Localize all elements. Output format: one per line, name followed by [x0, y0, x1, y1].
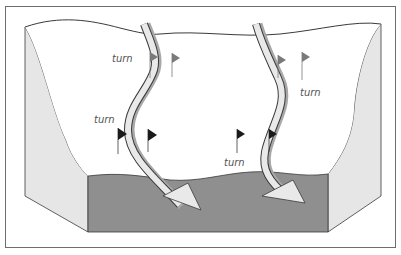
slope-diagram: turn turn turn turn: [0, 0, 401, 255]
turn-label-4: turn: [300, 87, 321, 98]
turn-label-3: turn: [224, 157, 245, 168]
turn-label-2: turn: [94, 114, 115, 125]
turn-label-1: turn: [112, 53, 133, 64]
snow-surface: [25, 20, 381, 180]
